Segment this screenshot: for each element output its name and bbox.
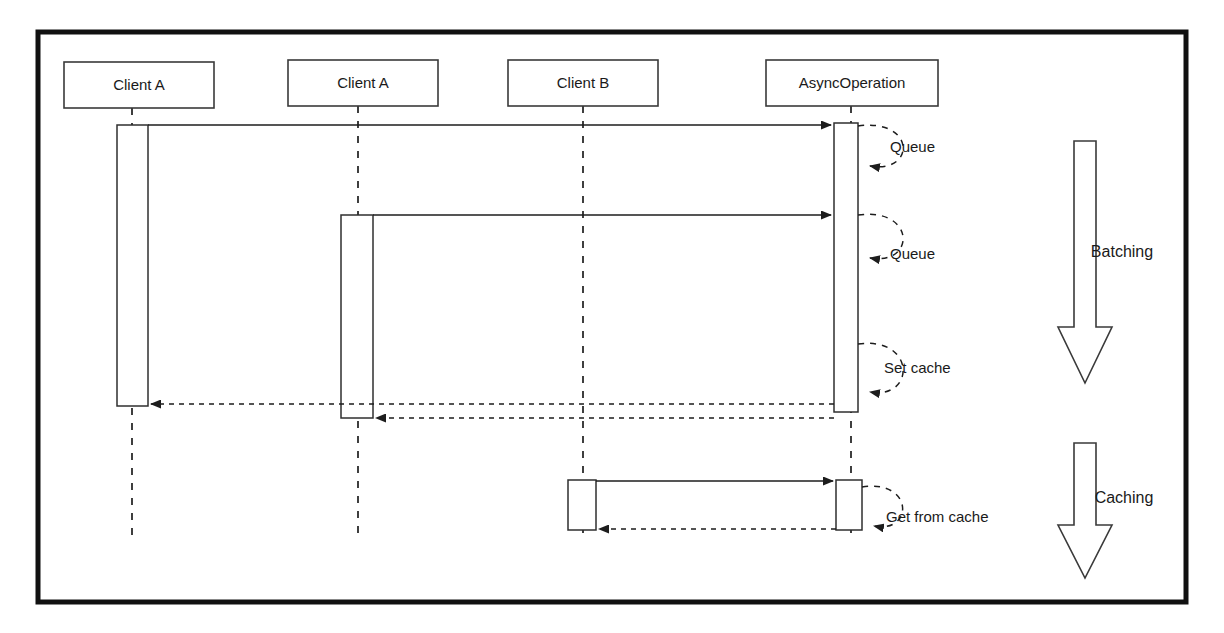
activation-bar-clientA2 (341, 215, 373, 418)
participant-clientA1[interactable]: Client A (64, 62, 214, 108)
participant-clientB[interactable]: Client B (508, 60, 658, 106)
phase-annotations-layer: BatchingCaching (1058, 141, 1153, 578)
participant-asyncOp[interactable]: AsyncOperation (766, 60, 938, 106)
phase-down-arrow-phase-caching (1058, 443, 1112, 578)
activation-bar-clientA1 (117, 125, 148, 406)
participant-label-clientB: Client B (557, 74, 610, 91)
self-message-label-s3: Set cache (884, 359, 951, 376)
self-message-label-s4: Get from cache (886, 508, 989, 525)
participants-layer: Client AClient AClient BAsyncOperation (64, 60, 938, 108)
participant-label-clientA2: Client A (337, 74, 389, 91)
self-message-label-s2: Queue (890, 245, 935, 262)
activation-bar-clientB (568, 480, 596, 530)
lifelines-layer (132, 106, 851, 537)
messages-layer (148, 125, 836, 529)
participant-label-clientA1: Client A (113, 76, 165, 93)
sequence-diagram-canvas: Client AClient AClient BAsyncOperation Q… (0, 0, 1224, 633)
sequence-diagram-svg: Client AClient AClient BAsyncOperation Q… (0, 0, 1224, 633)
phase-down-arrow-phase-batching (1058, 141, 1112, 383)
activations-layer (117, 123, 862, 530)
participant-clientA2[interactable]: Client A (288, 60, 438, 106)
phase-label-phase-batching: Batching (1091, 243, 1153, 260)
activation-bar-asyncOp (834, 123, 858, 412)
self-message-label-s1: Queue (890, 138, 935, 155)
phase-label-phase-caching: Caching (1095, 489, 1154, 506)
participant-label-asyncOp: AsyncOperation (799, 74, 906, 91)
activation-bar-asyncOp (836, 480, 862, 530)
self-messages-layer: QueueQueueSet cacheGet from cache (858, 125, 989, 527)
diagram-frame-border (38, 32, 1186, 602)
